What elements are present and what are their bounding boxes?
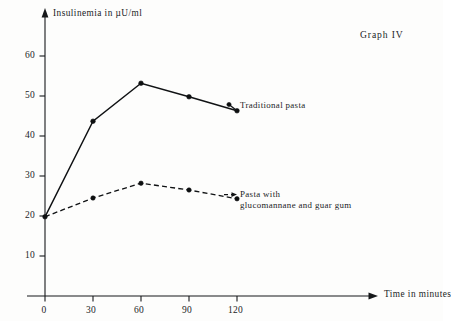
x-axis	[27, 293, 378, 302]
series-glucomannane-pasta	[45, 181, 239, 217]
data-point-marker	[91, 196, 95, 200]
data-point-marker	[187, 188, 191, 192]
series-label-traditional-pasta: Traditional pasta	[240, 100, 306, 111]
x-tick-label-60: 60	[134, 305, 144, 315]
y-axis-arrowhead	[42, 8, 49, 18]
y-tick-label-50: 50	[13, 90, 35, 100]
data-point-marker	[235, 197, 239, 201]
y-axis	[40, 8, 49, 296]
x-axis-arrowhead	[369, 293, 379, 300]
series-traditional-pasta	[43, 81, 240, 219]
graph-number-label: Graph IV	[360, 29, 404, 40]
legend-marker-traditional	[227, 102, 231, 106]
x-tick-label-90: 90	[182, 305, 192, 315]
y-axis-title: Insulinemia in µU/ml	[53, 8, 142, 18]
y-tick-label-30: 30	[13, 170, 35, 180]
x-axis-title: Time in minutes	[384, 289, 451, 299]
data-point-marker	[139, 181, 143, 185]
x-tick-label-0: 0	[42, 305, 47, 315]
y-tick-label-40: 40	[13, 130, 35, 140]
series-label-glucomannane-pasta: Pasta with glucomannane and guar gum	[240, 189, 352, 211]
data-point-marker	[187, 95, 192, 100]
data-point-marker	[91, 119, 96, 124]
data-point-marker	[139, 81, 144, 86]
x-tick-label-30: 30	[86, 305, 96, 315]
y-tick-label-60: 60	[13, 50, 35, 60]
series-label-glucomannane-line2: glucomannane and guar gum	[240, 200, 352, 211]
series-label-glucomannane-line1: Pasta with	[240, 189, 352, 200]
legend-marker-glucomannane	[232, 192, 238, 197]
x-tick-label-120: 120	[228, 305, 243, 315]
y-tick-label-10: 10	[13, 250, 35, 260]
y-tick-label-20: 20	[13, 210, 35, 220]
